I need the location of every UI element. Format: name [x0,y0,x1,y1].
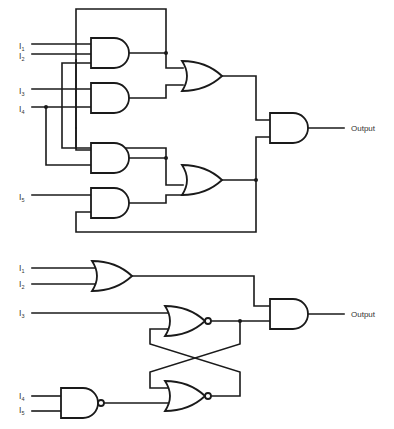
bottom-input-label-i5: I5 [19,405,24,416]
logic-diagram: I1 I2 I3 I4 I5 [0,0,394,429]
bottom-input-label-i1: I1 [19,263,24,274]
nand-gate-bubble [98,400,104,406]
top-circuit: I1 I2 I3 I4 I5 [19,9,376,232]
top-input-label-i3: I3 [19,86,24,97]
top-output-label: Output [351,124,376,133]
and-gate-1 [91,38,129,68]
bottom-circuit: I1 I2 I3 I4 I5 [19,261,376,418]
junction-dot [44,105,48,109]
and-gate-final [270,113,308,143]
top-input-label-i4: I4 [19,104,24,115]
nor-gate-2 [165,381,205,411]
bottom-output-label: Output [351,310,376,319]
top-input-label-i2: I2 [19,51,24,62]
junction-dot [238,319,242,323]
or-gate-2 [182,165,222,195]
or-gate-1 [182,61,222,91]
or-gate-bottom [92,261,132,291]
nor-gate-1-bubble [205,318,211,324]
and-gate-2 [91,83,129,113]
nor-gate-1 [165,306,205,336]
and-gate-3 [91,143,129,173]
bottom-input-label-i3: I3 [19,308,24,319]
junction-dot [164,156,168,160]
nor-gate-2-bubble [205,393,211,399]
and-gate-4 [91,188,129,218]
bottom-input-label-i2: I2 [19,279,24,290]
top-input-label-i5: I5 [19,192,24,203]
junction-dot [164,51,168,55]
and-gate-bottom-final [270,299,308,329]
bottom-input-label-i4: I4 [19,391,24,402]
nand-gate [61,388,98,418]
junction-dot [254,178,258,182]
